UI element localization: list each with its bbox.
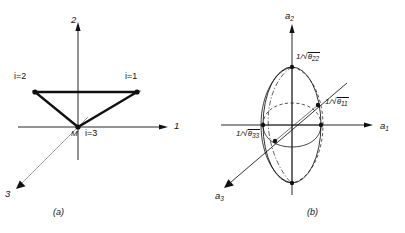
axis-label-1: 1: [174, 120, 179, 131]
origin-label-M: M: [71, 130, 78, 138]
theta-sub-a3: 33: [252, 132, 259, 139]
semi-axis-label-a1: 1/√θ11: [325, 97, 349, 107]
vertex-marker-a3-negative: [316, 103, 320, 107]
node-label-i2: i=2: [14, 72, 26, 81]
axis-label-a1: a1: [380, 120, 389, 132]
semi-axis-a3-radicand: θ33: [248, 129, 261, 139]
semi-axis-a2-radicand: θ22: [308, 52, 321, 62]
axis-label-2: 2: [71, 14, 76, 25]
node-marker-i2: [32, 89, 37, 94]
vertex-marker-a2-negative: [290, 181, 294, 185]
theta-sub-a2: 22: [312, 55, 319, 62]
axis-label-3: 3: [5, 188, 10, 199]
figure-root: i=2 i=1 i=3 M 2 1 3 (a): [0, 0, 405, 233]
vertex-marker-a1-negative: [261, 123, 265, 127]
node-label-i1: i=1: [125, 72, 137, 81]
semi-axis-a3-prefix: 1/: [236, 129, 243, 138]
panel-b: 1/√θ22 1/√θ11 1/√θ33 a2 a1 a3 (b): [203, 0, 405, 233]
semi-axis-label-a2: 1/√θ22: [296, 52, 320, 62]
triangle-element: [35, 92, 137, 127]
panel-a-caption: (a): [53, 207, 64, 217]
semi-axis-label-a3: 1/√θ33: [236, 129, 260, 139]
panel-a-drawing: [0, 0, 203, 233]
axis-label-a2: a2: [285, 10, 294, 22]
node-label-i3: i=3: [85, 129, 97, 138]
axis-a3-sub: 3: [220, 195, 224, 202]
node-marker-i1: [134, 89, 139, 94]
axis-a1-sub: 1: [385, 125, 389, 132]
axis-label-a3: a3: [215, 190, 224, 202]
panel-a: i=2 i=1 i=3 M 2 1 3 (a): [0, 0, 203, 233]
vertex-marker-a3-positive: [273, 139, 277, 143]
semi-axis-a1-radicand: θ11: [337, 97, 349, 107]
panel-b-drawing: [203, 0, 405, 233]
semi-axis-a2-prefix: 1/: [296, 52, 303, 61]
vertex-marker-a2-positive: [290, 65, 294, 69]
semi-axis-a1-prefix: 1/: [325, 97, 332, 106]
axis-a2-sub: 2: [290, 15, 294, 22]
theta-sub-a1: 11: [341, 100, 348, 107]
panel-b-caption: (b): [307, 207, 318, 217]
vertex-marker-a1-positive: [319, 123, 323, 127]
